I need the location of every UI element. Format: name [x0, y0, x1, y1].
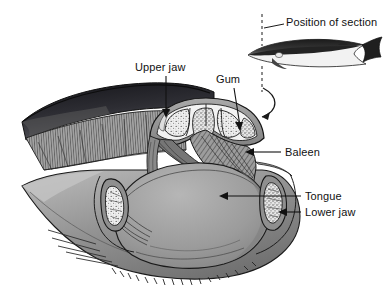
diagram-canvas	[0, 0, 388, 293]
label-upper-jaw: Upper jaw	[135, 61, 185, 73]
label-baleen: Baleen	[285, 146, 320, 158]
whale-silhouette	[248, 37, 382, 70]
label-position-of-section: Position of section	[286, 16, 377, 28]
label-tongue: Tongue	[305, 190, 342, 202]
label-lower-jaw: Lower jaw	[305, 206, 355, 218]
section-arrow-curve	[262, 88, 275, 117]
leader-position-of-section	[264, 24, 284, 28]
label-gum: Gum	[216, 73, 240, 85]
whale-anatomy-figure: Position of section Upper jaw Gum Baleen…	[0, 0, 388, 293]
tongue	[115, 163, 269, 268]
